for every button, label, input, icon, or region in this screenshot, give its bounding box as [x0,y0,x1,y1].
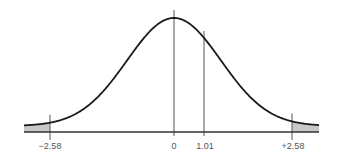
tick-label-right-critical: +2.58 [282,141,305,151]
normal-curve [24,18,319,125]
normal-distribution-chart [0,0,337,163]
tick-label-test-stat: 1.01 [196,141,214,151]
tick-label-left-critical: −2.58 [39,141,62,151]
tick-label-mean: 0 [171,141,176,151]
